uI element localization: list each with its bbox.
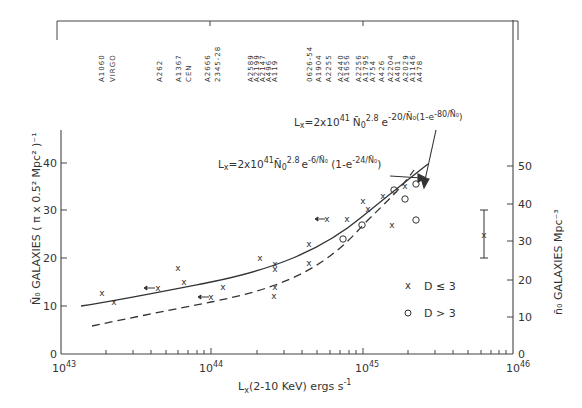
right-ticks [507,166,513,317]
cluster-label: VIRGO [109,54,117,82]
data-point-x: x [389,220,395,230]
legend-marker-x: x [405,280,411,291]
svg-text:Lx=2x1041N̄02.8e-20/N̄₀(1-e-80: Lx=2x1041N̄02.8e-20/N̄₀(1-e-80/N̄₀) [294,109,463,130]
dashed-model-curve [92,170,414,326]
data-point-x: x [306,258,312,268]
data-point-x: x [175,263,181,273]
y-right-tick-label: 20 [518,274,532,287]
y-tick-label: 30 [43,204,57,217]
data-point-x: x [181,277,187,287]
data-point-o [391,187,397,193]
y-right-tick-label: 30 [518,235,532,248]
legend-label-d-gt-3: D > 3 [424,307,456,320]
data-point-x: x [271,291,277,301]
data-point-x: x [99,288,105,298]
upper-limit-arrows [144,217,325,299]
y-right-tick-label: 50 [518,160,532,173]
y-tick-label: 10 [43,300,57,313]
cluster-label: A426 [378,60,386,82]
data-point-o [413,217,419,223]
y-right-axis-title: n̄₀ GALAXIES Mpc⁻³ [552,209,565,315]
cluster-label: A401 [394,60,402,82]
cluster-label: 2345-28 [214,46,222,82]
left-tick-labels: 0 10 20 30 40 [43,157,57,361]
cluster-label: A2255 [325,54,333,82]
data-point-o [402,196,408,202]
legend-label-d-le-3: D ≤ 3 [424,280,456,293]
x-tick-label: 1045 [355,360,379,375]
data-point-x: x [208,292,214,302]
top-frame [57,21,518,40]
chart: A1060 VIRGO A262 A1367 CEN A2666 2345-28… [0,0,582,408]
data-point-x: x [402,181,408,191]
legend: x D ≤ 3 D > 3 [405,280,456,320]
cluster-label: A1060 [98,54,106,82]
bottom-ticks [106,348,506,354]
data-point-x: x [257,253,263,263]
svg-text:Lx=2x1041N̄02.8e-6/N̄₀ (1-e-24: Lx=2x1041N̄02.8e-6/N̄₀ (1-e-24/N̄₀) [218,155,381,172]
x-tick-label: 1046 [506,360,530,375]
model-curves [81,164,428,326]
legend-marker-o [405,310,411,316]
cluster-label: A1367 [175,54,183,82]
data-point-x: x [306,239,312,249]
annotation-arrows [390,130,436,188]
cluster-label: 0626-54 [306,46,314,82]
error-bar: x [480,210,488,258]
equation-mid: Lx=2x1041N̄02.8e-6/N̄₀ (1-e-24/N̄₀) [218,155,381,172]
x-axis-title: Lx(2-10 KeV) ergs s-1 [238,378,351,395]
cluster-label: A754 [369,60,377,82]
equation-top: Lx=2x1041N̄02.8e-20/N̄₀(1-e-80/N̄₀) [294,109,463,130]
data-point-x: x [380,191,386,201]
data-point-x: x [111,297,117,307]
data-point-x: x [220,282,226,292]
data-point-x: x [155,283,161,293]
cluster-label: A2666 [204,54,212,82]
y-tick-label: 40 [43,157,57,170]
cluster-label: A478 [416,60,424,82]
axes [61,20,513,354]
y-tick-label: 0 [50,348,57,361]
y-right-tick-label: 10 [518,311,532,324]
bottom-tick-labels: 1043 1044 1045 1046 [52,360,530,375]
data-point-x: x [272,264,278,274]
cluster-labels: A1060 VIRGO A262 A1367 CEN A2666 2345-28… [98,46,424,82]
cluster-label: A119 [271,60,279,82]
cluster-label: A1904 [315,54,323,82]
x-tick-label: 1043 [52,360,76,375]
y-right-tick-label: 40 [518,198,532,211]
data-point-x: x [365,204,371,214]
cluster-label: A1656 [343,54,351,82]
svg-text:x: x [481,230,487,240]
cluster-label: A262 [156,60,164,82]
data-point-o [359,222,365,228]
y-left-axis-title: N̄₀ GALAXIES ( π x 0.5² Mpc² )⁻¹ [30,132,43,305]
data-point-x: x [324,214,330,224]
data-point-o [340,236,346,242]
left-ticks [61,163,67,306]
x-tick-label: 1044 [199,360,223,375]
y-tick-label: 20 [43,252,57,265]
right-tick-labels: 0 10 20 30 40 50 [518,160,532,361]
data-point-o [413,181,419,187]
solid-model-curve [81,164,428,306]
cluster-label: CEN [185,64,193,82]
data-point-x: x [344,214,350,224]
